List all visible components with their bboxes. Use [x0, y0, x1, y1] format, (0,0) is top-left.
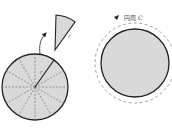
- circumference-label: 円周 C: [124, 14, 143, 22]
- removal-arrow: [40, 34, 45, 54]
- left-circle: r: [2, 54, 68, 120]
- right-circle: 円周 C: [95, 13, 172, 103]
- detached-sector: r: [55, 15, 75, 50]
- diagram-canvas: r r 円周 C: [0, 0, 172, 130]
- sector-label: r: [68, 33, 71, 39]
